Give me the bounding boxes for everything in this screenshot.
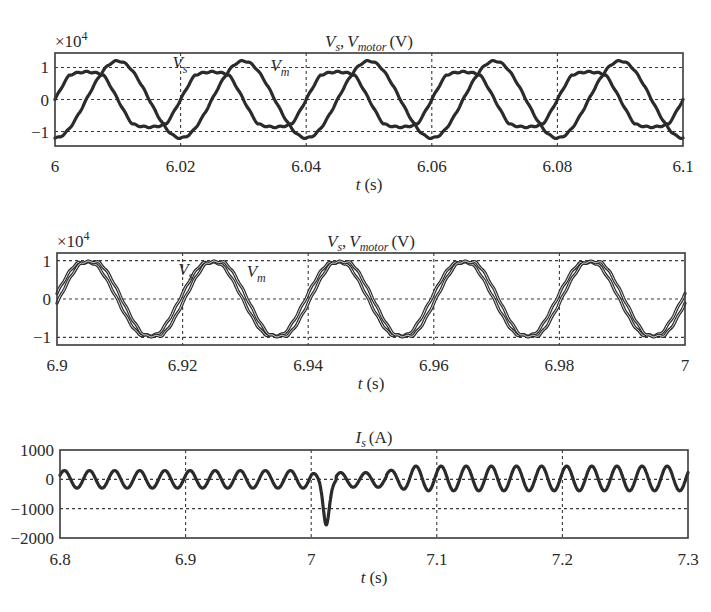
x-tick-label: 6.98 xyxy=(545,356,575,375)
plot-3-grid xyxy=(60,450,688,538)
x-tick-label: 7 xyxy=(681,356,690,375)
plot-1-traces xyxy=(55,61,683,139)
x-tick-label: 6.04 xyxy=(291,157,321,176)
x-tick-label: 6.1 xyxy=(672,157,693,176)
plot-1-y-tick-labels: −101 xyxy=(31,58,49,141)
y-tick-label: 0 xyxy=(41,91,50,110)
plot-3-frame xyxy=(60,450,688,538)
y-tick-label: −1000 xyxy=(10,500,54,519)
x-tick-label: 6 xyxy=(51,157,60,176)
x-tick-label: 6.94 xyxy=(293,356,323,375)
plot-1-voltage-6-to-6.1: ×104 Vs,Vmotor(V) −101 66.026.046.066.08… xyxy=(31,29,694,194)
y-tick-label: −2000 xyxy=(10,529,54,548)
x-tick-label: 6.8 xyxy=(49,550,70,569)
x-tick-label: 6.02 xyxy=(166,157,196,176)
x-tick-label: 6.06 xyxy=(417,157,447,176)
x-tick-label: 7.2 xyxy=(552,550,573,569)
x-tick-label: 7.3 xyxy=(677,550,698,569)
y-tick-label: 1000 xyxy=(20,441,54,460)
x-tick-label: 6.92 xyxy=(168,356,198,375)
series-label-Vm: Vm xyxy=(247,262,266,285)
plot-2-title: Vs,Vmotor(V) xyxy=(327,232,415,254)
x-tick-label: 7.1 xyxy=(426,550,447,569)
y-tick-label: 1 xyxy=(41,58,50,77)
series-label-Vs: Vs xyxy=(178,260,193,283)
plot-1-x-axis-label: t(s) xyxy=(356,175,383,194)
x-tick-label: 6.9 xyxy=(175,550,196,569)
plot-3-x-tick-labels: 6.86.977.17.27.3 xyxy=(49,550,698,569)
trace-Is xyxy=(60,466,688,525)
plot-3-current-6.8-to-7.3: Is(A) −2000−100001000 6.86.977.17.27.3 t… xyxy=(10,428,698,587)
plot-3-title: Is(A) xyxy=(355,428,393,450)
plot-3-traces xyxy=(60,466,688,525)
y-tick-label: 1 xyxy=(43,252,52,271)
plot-3-x-axis-label: t(s) xyxy=(361,568,388,587)
x-tick-label: 7 xyxy=(307,550,316,569)
x-tick-label: 6.08 xyxy=(543,157,573,176)
plot-1-title: Vs,Vmotor(V) xyxy=(325,32,413,54)
plot-1-y-multiplier: ×104 xyxy=(55,29,88,51)
y-tick-label: 0 xyxy=(46,470,55,489)
plot-1-x-tick-labels: 66.026.046.066.086.1 xyxy=(51,157,694,176)
y-tick-label: −1 xyxy=(31,123,49,142)
plot-2-x-axis-label: t(s) xyxy=(358,374,385,393)
plot-2-grid xyxy=(57,253,685,345)
plot-2-voltage-6.9-to-7: ×104 Vs,Vmotor(V) −101 6.96.926.946.966.… xyxy=(33,229,690,393)
plot-3-y-tick-labels: −2000−100001000 xyxy=(10,441,54,548)
x-tick-label: 6.9 xyxy=(46,356,67,375)
plot-2-y-multiplier: ×104 xyxy=(57,229,90,251)
figure-canvas: ×104 Vs,Vmotor(V) −101 66.026.046.066.08… xyxy=(0,0,711,612)
series-label-Vm: Vm xyxy=(270,56,289,79)
y-tick-label: −1 xyxy=(33,328,51,347)
plot-2-x-tick-labels: 6.96.926.946.966.987 xyxy=(46,356,689,375)
y-tick-label: 0 xyxy=(43,290,52,309)
plot-2-y-tick-labels: −101 xyxy=(33,252,51,348)
x-tick-label: 6.96 xyxy=(419,356,449,375)
